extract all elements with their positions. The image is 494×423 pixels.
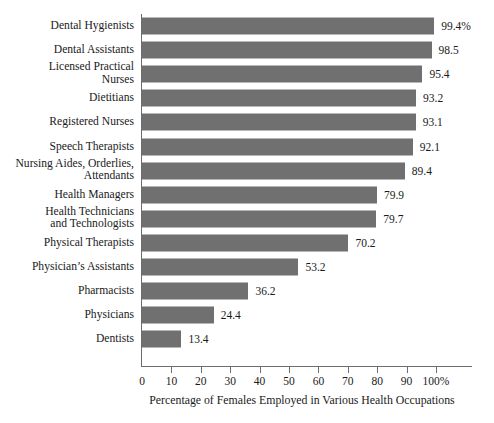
x-axis-tick bbox=[260, 367, 261, 373]
x-axis-tick-label: 30 bbox=[224, 374, 236, 388]
bar-value-label: 92.1 bbox=[420, 140, 440, 154]
x-axis-tick-label: 60 bbox=[313, 374, 325, 388]
category-label: Nursing Aides, Orderlies, Attendants bbox=[6, 158, 134, 183]
x-axis-tick bbox=[348, 367, 349, 373]
bar bbox=[142, 162, 405, 179]
bar-row: Nursing Aides, Orderlies, Attendants89.4 bbox=[0, 159, 494, 183]
bar-value-label: 70.2 bbox=[355, 236, 375, 250]
x-axis-tick-label: 100% bbox=[423, 374, 450, 388]
bar-row: Registered Nurses93.1 bbox=[0, 110, 494, 134]
bar-value-label: 99.4% bbox=[441, 19, 471, 33]
category-label: Health Managers bbox=[6, 188, 134, 201]
x-axis-tick bbox=[289, 367, 290, 373]
category-label: Registered Nurses bbox=[6, 116, 134, 129]
bar-value-label: 13.4 bbox=[188, 332, 208, 346]
x-axis-tick bbox=[377, 367, 378, 373]
x-axis-tick bbox=[407, 367, 408, 373]
bar-chart: Dental Hygienists99.4%Dental Assistants9… bbox=[0, 0, 494, 423]
bar bbox=[142, 331, 181, 348]
bar-row: Health Managers79.9 bbox=[0, 183, 494, 207]
bar-value-label: 24.4 bbox=[221, 308, 241, 322]
bar-value-label: 89.4 bbox=[412, 164, 432, 178]
bar-row: Dentists13.4 bbox=[0, 327, 494, 351]
bar-row: Physical Therapists70.2 bbox=[0, 231, 494, 255]
bar bbox=[142, 90, 416, 107]
bar bbox=[142, 138, 413, 155]
category-label: Dental Hygienists bbox=[6, 20, 134, 33]
x-axis-tick-label: 20 bbox=[195, 374, 207, 388]
bar-row: Physicians24.4 bbox=[0, 303, 494, 327]
bar-value-label: 36.2 bbox=[255, 284, 275, 298]
bar-row: Pharmacists36.2 bbox=[0, 279, 494, 303]
category-label: Physical Therapists bbox=[6, 237, 134, 250]
bar-row: Licensed Practical Nurses95.4 bbox=[0, 62, 494, 86]
bar bbox=[142, 283, 248, 300]
x-axis-tick bbox=[318, 367, 319, 373]
x-axis-line bbox=[141, 366, 472, 367]
category-label: Licensed Practical Nurses bbox=[6, 62, 134, 87]
category-label: Dietitians bbox=[6, 92, 134, 105]
category-label: Pharmacists bbox=[6, 285, 134, 298]
bar bbox=[142, 114, 416, 131]
category-label: Health Technicians and Technologists bbox=[6, 206, 134, 231]
bar-value-label: 79.7 bbox=[383, 212, 403, 226]
x-axis-tick-label: 70 bbox=[342, 374, 354, 388]
x-axis-tick bbox=[171, 367, 172, 373]
bar-value-label: 93.2 bbox=[423, 91, 443, 105]
x-axis-tick-label: 0 bbox=[139, 374, 145, 388]
bar-row: Speech Therapists92.1 bbox=[0, 135, 494, 159]
bar-value-label: 53.2 bbox=[305, 260, 325, 274]
bar-row: Dental Hygienists99.4% bbox=[0, 14, 494, 38]
x-axis-tick bbox=[201, 367, 202, 373]
bar-row: Dental Assistants98.5 bbox=[0, 38, 494, 62]
x-axis-tick-label: 90 bbox=[401, 374, 413, 388]
x-axis-tick bbox=[436, 367, 437, 373]
category-label: Physician’s Assistants bbox=[6, 261, 134, 274]
bar bbox=[142, 66, 422, 83]
bar-row: Physician’s Assistants53.2 bbox=[0, 255, 494, 279]
bar bbox=[142, 18, 434, 35]
x-axis-tick-label: 80 bbox=[371, 374, 383, 388]
bar bbox=[142, 210, 376, 227]
bar bbox=[142, 259, 298, 276]
bar bbox=[142, 186, 377, 203]
x-axis-tick-label: 40 bbox=[254, 374, 266, 388]
bar-value-label: 98.5 bbox=[439, 43, 459, 57]
x-axis-tick-label: 10 bbox=[166, 374, 178, 388]
bar-value-label: 95.4 bbox=[429, 67, 449, 81]
bar-row: Dietitians93.2 bbox=[0, 86, 494, 110]
bar bbox=[142, 42, 432, 59]
x-axis-tick-label: 50 bbox=[283, 374, 295, 388]
x-axis-tick bbox=[230, 367, 231, 373]
bar bbox=[142, 307, 214, 324]
x-axis-title: Percentage of Females Employed in Variou… bbox=[0, 393, 494, 408]
category-label: Dental Assistants bbox=[6, 44, 134, 57]
category-label: Speech Therapists bbox=[6, 140, 134, 153]
x-axis-title-text: Percentage of Females Employed in Variou… bbox=[149, 393, 454, 407]
bar-value-label: 93.1 bbox=[423, 115, 443, 129]
bar-row: Health Technicians and Technologists79.7 bbox=[0, 207, 494, 231]
bar bbox=[142, 234, 348, 251]
category-label: Dentists bbox=[6, 333, 134, 346]
bar-value-label: 79.9 bbox=[384, 188, 404, 202]
category-label: Physicians bbox=[6, 309, 134, 322]
